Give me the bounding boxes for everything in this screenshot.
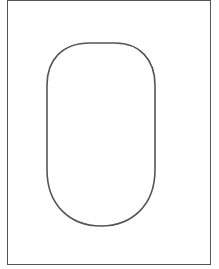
- rounded-rectangle-outline: [0, 0, 219, 269]
